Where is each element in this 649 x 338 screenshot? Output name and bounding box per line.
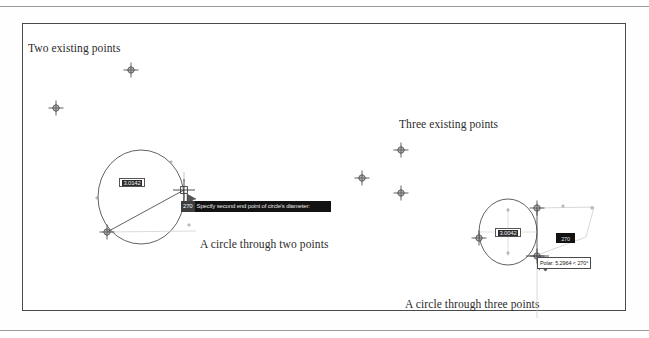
left-dimension-value: 3.0142	[122, 180, 141, 186]
right-polar-tracking-tooltip: Polar: 5.2964 < 270°	[537, 257, 591, 269]
left-command-prompt-text: Specify second end point of circle's dia…	[197, 202, 313, 211]
scan-rule-bottom	[0, 330, 649, 331]
caption-circle-through-two-points: A circle through two points	[200, 238, 329, 250]
caption-two-existing-points: Two existing points	[28, 42, 120, 54]
figure-border	[22, 23, 626, 311]
left-dimension-input-box[interactable]: 3.0142	[119, 178, 145, 187]
left-command-angle-field: 270	[181, 201, 195, 212]
scan-rule-top	[0, 6, 649, 7]
caption-three-existing-points: Three existing points	[399, 118, 498, 130]
page-scan: Two existing points Three existing point…	[0, 0, 649, 338]
right-dimension-value: 3.0042	[498, 230, 517, 236]
right-dimension-input-box[interactable]: 3.0042	[495, 228, 521, 237]
right-angle-tooltip: 270	[556, 233, 575, 243]
caption-circle-through-three-points: A circle through three points	[405, 298, 539, 310]
left-command-prompt-tooltip: 270 Specify second end point of circle's…	[181, 201, 331, 212]
